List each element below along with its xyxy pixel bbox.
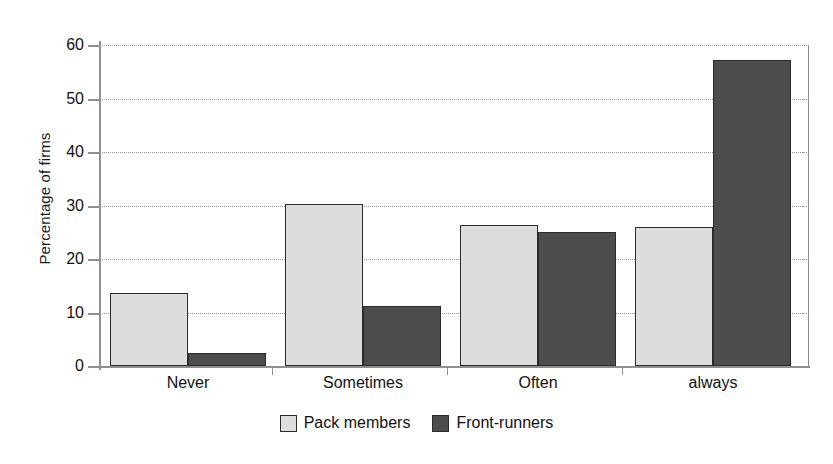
y-tick-40 bbox=[88, 152, 99, 154]
bar-sometimes-pack-members bbox=[285, 204, 363, 366]
y-tick-label-30: 30 bbox=[40, 197, 84, 215]
x-separator-1 bbox=[447, 366, 448, 375]
bars-layer bbox=[100, 45, 809, 366]
legend-swatch-icon-pack-members bbox=[280, 415, 297, 432]
x-separator-0 bbox=[272, 366, 273, 375]
y-tick-60 bbox=[88, 45, 99, 47]
y-tick-label-0: 0 bbox=[40, 357, 84, 375]
y-tick-label-10: 10 bbox=[40, 304, 84, 322]
y-tick-label-20: 20 bbox=[40, 250, 84, 268]
x-label-always: always bbox=[689, 374, 738, 392]
y-axis-tick-labels: 0102030405060 bbox=[36, 0, 84, 464]
y-tick-10 bbox=[88, 313, 99, 315]
x-label-never: Never bbox=[167, 374, 210, 392]
x-axis-line bbox=[88, 366, 810, 368]
y-tick-50 bbox=[88, 99, 99, 101]
y-tick-30 bbox=[88, 206, 99, 208]
x-label-sometimes: Sometimes bbox=[323, 374, 403, 392]
x-label-often: Often bbox=[518, 374, 557, 392]
bar-always-pack-members bbox=[635, 227, 713, 366]
legend: Pack members Front-runners bbox=[0, 414, 833, 432]
y-tick-label-40: 40 bbox=[40, 143, 84, 161]
legend-item-front-runners[interactable]: Front-runners bbox=[432, 414, 553, 432]
y-tick-label-50: 50 bbox=[40, 90, 84, 108]
bar-often-pack-members bbox=[460, 225, 538, 366]
bar-never-front-runners bbox=[188, 353, 266, 366]
legend-item-pack-members[interactable]: Pack members bbox=[280, 414, 411, 432]
x-separator-2 bbox=[622, 366, 623, 375]
bar-always-front-runners bbox=[713, 60, 791, 366]
bar-never-pack-members bbox=[110, 293, 188, 366]
legend-swatch-icon-front-runners bbox=[432, 415, 449, 432]
legend-label-front-runners: Front-runners bbox=[456, 414, 553, 432]
bar-sometimes-front-runners bbox=[363, 306, 441, 366]
legend-label-pack-members: Pack members bbox=[304, 414, 411, 432]
y-tick-label-60: 60 bbox=[40, 36, 84, 54]
bar-often-front-runners bbox=[538, 232, 616, 366]
y-tick-0 bbox=[88, 366, 99, 368]
y-tick-20 bbox=[88, 259, 99, 261]
bar-chart: Percentage of firms 0102030405060 NeverS… bbox=[0, 0, 833, 464]
